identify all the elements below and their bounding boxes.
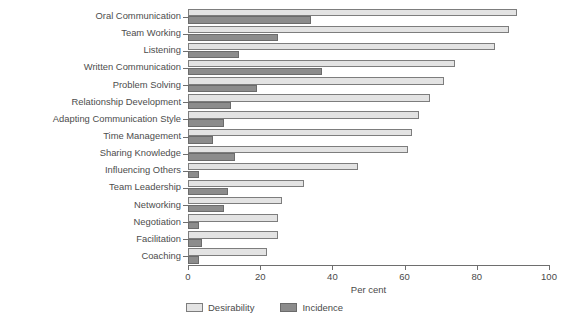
bar-incidence [188,34,278,41]
x-axis-tick-label: 60 [399,271,410,282]
category-label: Coaching [141,251,181,261]
category-tick [183,239,188,240]
bar-desirability [188,9,517,16]
x-axis-tick-label: 0 [185,271,190,282]
category-tick [183,137,188,138]
x-axis-tick [260,265,261,270]
category-axis: Oral CommunicationTeam WorkingListeningW… [0,8,183,265]
bar-desirability [188,129,412,136]
bar-desirability [188,111,419,118]
bar-chart: Oral CommunicationTeam WorkingListeningW… [0,0,565,323]
x-axis-tick-label: 20 [255,271,266,282]
bar-desirability [188,26,509,33]
bar-desirability [188,60,455,67]
bar-incidence [188,16,311,23]
legend-swatch-desirability-icon [186,303,203,312]
bar-desirability [188,163,358,170]
bar-incidence [188,205,224,212]
category-label: Sharing Knowledge [100,148,181,158]
category-tick [183,17,188,18]
bar-incidence [188,171,199,178]
category-label: Influencing Others [105,165,181,175]
category-label: Adapting Communication Style [53,114,181,124]
category-tick [183,171,188,172]
x-axis-tick [188,265,189,270]
bar-desirability [188,231,278,238]
category-tick [183,188,188,189]
category-tick [183,51,188,52]
category-tick [183,34,188,35]
plot-area [188,8,549,265]
bar-incidence [188,153,235,160]
x-axis-title: Per cent [188,284,549,295]
bar-incidence [188,51,239,58]
category-tick [183,102,188,103]
category-tick [183,205,188,206]
bar-desirability [188,77,444,84]
legend-item-desirability: Desirability [186,302,254,313]
category-tick [183,256,188,257]
category-tick [183,222,188,223]
bar-incidence [188,102,231,109]
category-tick [183,85,188,86]
category-label: Facilitation [136,234,181,244]
bar-incidence [188,68,322,75]
category-tick [183,68,188,69]
bar-incidence [188,256,199,263]
bar-desirability [188,214,278,221]
bar-desirability [188,146,408,153]
category-tick [183,119,188,120]
bar-desirability [188,197,282,204]
legend-label-desirability: Desirability [208,302,254,313]
x-axis-tick-label: 40 [327,271,338,282]
category-label: Networking [134,200,181,210]
category-label: Relationship Development [72,97,181,107]
bar-desirability [188,248,267,255]
category-label: Team Working [121,28,181,38]
bar-incidence [188,85,257,92]
x-axis-tick [549,265,550,270]
category-label: Listening [143,45,181,55]
bar-incidence [188,136,213,143]
x-axis-tick [332,265,333,270]
bar-desirability [188,94,430,101]
category-label: Time Management [103,131,181,141]
category-label: Negotiation [134,217,181,227]
bar-incidence [188,119,224,126]
x-axis-tick [405,265,406,270]
x-axis-tick [477,265,478,270]
x-axis-tick-label: 80 [472,271,483,282]
bar-incidence [188,222,199,229]
bar-incidence [188,239,202,246]
legend-label-incidence: Incidence [302,302,343,313]
x-axis-tick-label: 100 [541,271,557,282]
category-label: Written Communication [84,62,181,72]
category-label: Oral Communication [96,11,181,21]
category-tick [183,154,188,155]
legend-swatch-incidence-icon [280,303,297,312]
legend-item-incidence: Incidence [280,302,343,313]
bar-incidence [188,188,228,195]
bar-desirability [188,180,304,187]
category-label: Problem Solving [113,80,181,90]
x-axis-line [188,265,549,266]
category-label: Team Leadership [109,182,181,192]
chart-legend: Desirability Incidence [186,302,343,313]
bar-desirability [188,43,495,50]
